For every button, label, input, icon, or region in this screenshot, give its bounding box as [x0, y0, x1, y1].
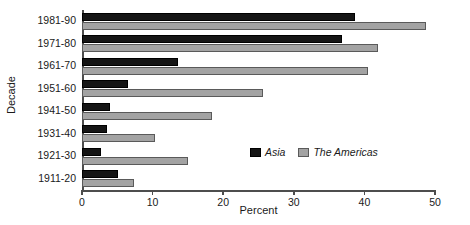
bar-asia — [82, 148, 101, 156]
bar-group: 1981-90 — [82, 10, 435, 33]
bar-group: 1941-50 — [82, 100, 435, 123]
y-tick-label: 1941-50 — [37, 102, 76, 118]
bar-the-americas — [82, 134, 155, 142]
bar-asia — [82, 103, 110, 111]
x-tick-mark — [293, 190, 295, 195]
bar-asia — [82, 170, 118, 178]
bar-asia — [82, 13, 355, 21]
chart-legend: Asia The Americas — [250, 146, 378, 158]
bar-group: 1951-60 — [82, 78, 435, 101]
y-axis-title-text: Decade — [5, 76, 17, 114]
bar-the-americas — [82, 157, 188, 165]
plot-area: 1981-901971-801961-701951-601941-501931-… — [82, 10, 435, 190]
bar-asia — [82, 125, 107, 133]
bar-the-americas — [82, 89, 263, 97]
bar-the-americas — [82, 179, 134, 187]
legend-swatch-asia — [250, 148, 261, 157]
x-tick-mark — [222, 190, 224, 195]
legend-label-the-americas: The Americas — [313, 146, 377, 158]
bar-group: 1971-80 — [82, 33, 435, 56]
bar-asia — [82, 35, 342, 43]
bar-the-americas — [82, 44, 378, 52]
legend-item-asia: Asia — [250, 146, 285, 158]
legend-swatch-the-americas — [298, 148, 309, 157]
x-axis-title: Percent — [82, 204, 435, 216]
x-axis-title-text: Percent — [240, 204, 278, 216]
x-tick-mark — [152, 190, 154, 195]
x-tick-mark — [81, 190, 83, 195]
bar-asia — [82, 80, 128, 88]
x-tick-mark — [364, 190, 366, 195]
x-axis-line — [82, 190, 435, 192]
y-tick-label: 1961-70 — [37, 57, 76, 73]
y-tick-label: 1931-40 — [37, 125, 76, 141]
y-tick-label: 1981-90 — [37, 12, 76, 28]
y-tick-label: 1921-30 — [37, 147, 76, 163]
bar-the-americas — [82, 22, 426, 30]
y-axis-title: Decade — [2, 0, 20, 190]
bar-chart: Decade 1981-901971-801961-701951-601941-… — [0, 0, 470, 225]
legend-label-asia: Asia — [265, 146, 285, 158]
x-tick-mark — [434, 190, 436, 195]
y-tick-label: 1971-80 — [37, 35, 76, 51]
y-tick-label: 1951-60 — [37, 80, 76, 96]
bar-group: 1931-40 — [82, 123, 435, 146]
bar-group: 1961-70 — [82, 55, 435, 78]
bar-asia — [82, 58, 178, 66]
bar-the-americas — [82, 112, 212, 120]
legend-item-the-americas: The Americas — [298, 146, 377, 158]
y-tick-label: 1911-20 — [38, 170, 76, 186]
bar-group: 1911-20 — [82, 168, 435, 191]
bar-the-americas — [82, 67, 368, 75]
